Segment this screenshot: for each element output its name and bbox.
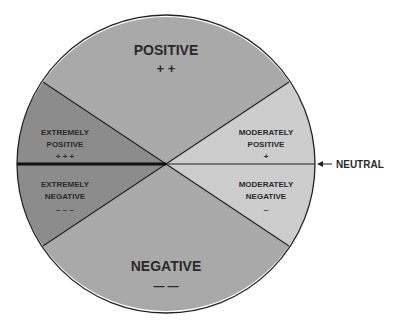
neutral-label: NEUTRAL	[336, 159, 384, 170]
positive-symbol: + +	[157, 61, 176, 76]
moderately-negative-line1: MODERATELY	[239, 180, 294, 189]
moderately-positive-line2: POSITIVE	[248, 140, 286, 149]
extremely-negative-line1: EXTREMELY	[41, 180, 90, 189]
moderately-positive-line1: MODERATELY	[239, 128, 294, 137]
extremely-negative-symbol: – – –	[56, 205, 74, 214]
extremely-positive-line2: POSITIVE	[47, 140, 85, 149]
extremely-positive-symbol: + + +	[56, 152, 75, 161]
moderately-negative-line2: NEGATIVE	[246, 192, 287, 201]
moderately-positive-symbol: +	[264, 152, 269, 161]
negative-symbol: — —	[153, 280, 178, 292]
extremely-positive-line1: EXTREMELY	[41, 128, 90, 137]
moderately-negative-symbol: –	[264, 205, 269, 214]
attitude-wheel-diagram: NEUTRAL POSITIVE + + EXTREMELY POSITIVE …	[0, 0, 400, 327]
negative-title: NEGATIVE	[131, 258, 202, 274]
positive-title: POSITIVE	[134, 42, 199, 58]
extremely-negative-line2: NEGATIVE	[45, 192, 86, 201]
arrow-left-icon	[317, 161, 323, 167]
